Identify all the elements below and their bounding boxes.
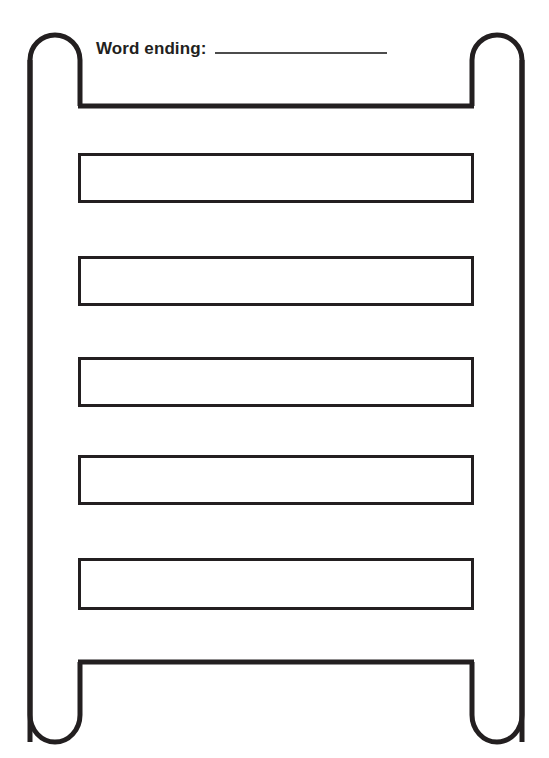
ladder-rung-2[interactable] (78, 256, 474, 306)
ladder-rung-2-text (81, 259, 471, 303)
word-ending-input[interactable] (215, 34, 387, 54)
ladder-rung-3[interactable] (78, 357, 474, 407)
right-rail-bottom-arc (472, 60, 522, 742)
right-rail-top-arc (472, 35, 522, 742)
word-ending-label: Word ending: (96, 39, 206, 59)
word-ending-prompt: Word ending: (96, 34, 387, 59)
left-rail-bottom-arc (30, 60, 80, 742)
ladder-rung-5[interactable] (78, 558, 474, 610)
ladder-rung-1[interactable] (78, 153, 474, 203)
ladder-rung-4[interactable] (78, 455, 474, 505)
ladder-rung-5-text (81, 561, 471, 607)
ladder-rung-4-text (81, 458, 471, 502)
left-rail-top-arc (30, 35, 80, 742)
ladder-rung-3-text (81, 360, 471, 404)
word-ladder-worksheet: Word ending: (0, 0, 549, 758)
ladder-rung-1-text (81, 156, 471, 200)
